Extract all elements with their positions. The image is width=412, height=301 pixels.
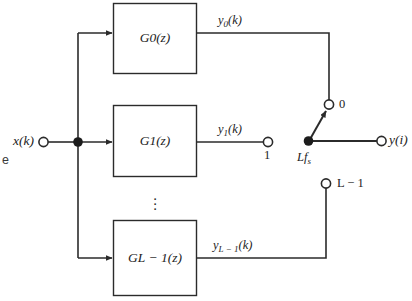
signal-label-y1: y1(k) bbox=[218, 123, 242, 138]
figure-canvas: G0(z) G1(z) GL − 1(z) ... x(k) e y0(k) y… bbox=[0, 0, 412, 301]
vertical-ellipsis: ... bbox=[153, 193, 157, 208]
caption-fragment: e bbox=[2, 153, 9, 167]
terminal-label-lminus1: L − 1 bbox=[337, 176, 364, 191]
terminal-1-circle[interactable] bbox=[263, 137, 272, 146]
switch-blade[interactable] bbox=[309, 111, 326, 141]
block-label-g1: G1(z) bbox=[140, 133, 171, 149]
switch-pivot-dot bbox=[304, 136, 314, 146]
input-terminal-circle[interactable] bbox=[39, 137, 48, 146]
terminal-label-1: 1 bbox=[264, 148, 270, 163]
input-label: x(k) bbox=[13, 134, 34, 148]
input-junction-dot bbox=[73, 137, 83, 147]
terminal-label-0: 0 bbox=[339, 97, 345, 112]
diagram-svg bbox=[0, 0, 412, 301]
signal-label-y0: y0(k) bbox=[218, 14, 242, 29]
switch-rate-label: Lfs bbox=[297, 151, 311, 166]
terminal-lminus1-circle[interactable] bbox=[321, 179, 330, 188]
signal-label-ylm1: yL − 1(k) bbox=[213, 239, 252, 254]
output-terminal-circle[interactable] bbox=[377, 136, 386, 145]
block-label-g0: G0(z) bbox=[140, 30, 171, 46]
terminal-0-circle[interactable] bbox=[324, 100, 333, 109]
block-label-glm1: GL − 1(z) bbox=[128, 250, 182, 266]
wire-y0-to-terminal0 bbox=[197, 33, 330, 100]
output-label: y(i) bbox=[389, 133, 408, 147]
